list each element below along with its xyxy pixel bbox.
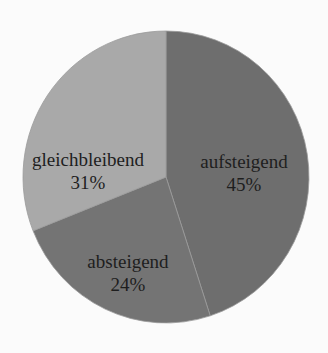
label-gleichbleibend-name: gleichbleibend <box>32 148 144 171</box>
label-absteigend-pct: 24% <box>87 273 168 296</box>
label-aufsteigend-name: aufsteigend <box>200 150 288 173</box>
label-gleichbleibend-pct: 31% <box>32 171 144 194</box>
label-absteigend-name: absteigend <box>87 250 168 273</box>
label-aufsteigend: aufsteigend 45% <box>200 150 288 196</box>
label-absteigend: absteigend 24% <box>87 250 168 296</box>
label-aufsteigend-pct: 45% <box>200 173 288 196</box>
label-gleichbleibend: gleichbleibend 31% <box>32 148 144 194</box>
